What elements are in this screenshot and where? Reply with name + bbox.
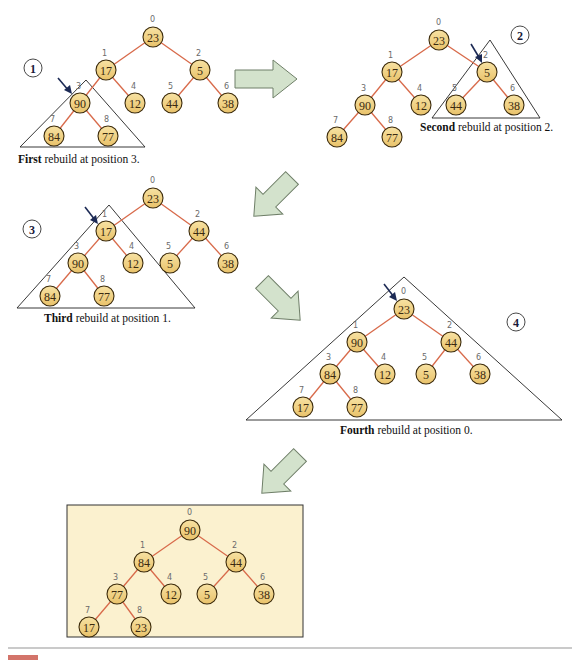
node-value: 84 <box>138 556 150 570</box>
node-index: 1 <box>353 321 358 330</box>
heap-node: 843 <box>320 353 340 384</box>
heap-node: 778 <box>94 275 114 306</box>
node-index: 2 <box>447 321 452 330</box>
node-index: 5 <box>422 353 427 362</box>
node-index: 6 <box>224 82 229 91</box>
heap-node: 445 <box>446 84 466 115</box>
node-index: 4 <box>129 242 134 251</box>
node-value: 12 <box>165 588 177 602</box>
node-index: 4 <box>131 82 136 91</box>
heap-node: 171 <box>96 49 116 80</box>
node-index: 3 <box>76 82 81 91</box>
node-index: 2 <box>195 210 200 219</box>
node-value: 44 <box>193 225 205 239</box>
node-index: 3 <box>361 84 366 93</box>
node-value: 84 <box>48 130 60 144</box>
node-index: 6 <box>224 242 229 251</box>
svg-text:2: 2 <box>517 29 523 43</box>
node-index: 4 <box>167 573 172 582</box>
node-value: 84 <box>324 368 336 382</box>
node-value: 77 <box>102 130 114 144</box>
node-index: 3 <box>113 573 118 582</box>
pointer-arrow-icon <box>384 284 397 301</box>
node-value: 44 <box>445 336 457 350</box>
node-value: 90 <box>184 524 196 538</box>
node-index: 7 <box>299 386 304 395</box>
node-value: 12 <box>127 257 139 271</box>
heap-node: 171 <box>96 210 116 241</box>
flow-arrow-down-left-icon <box>240 165 305 230</box>
heap-node: 442 <box>189 210 209 241</box>
node-value: 12 <box>129 97 141 111</box>
node-index: 2 <box>483 51 488 60</box>
heap-node: 124 <box>123 242 143 273</box>
node-value: 5 <box>484 66 490 80</box>
node-value: 44 <box>230 556 242 570</box>
node-index: 1 <box>388 51 393 60</box>
caption-step2: Second rebuild at position 2. <box>420 121 553 134</box>
svg-text:4: 4 <box>513 316 519 330</box>
node-index: 0 <box>436 18 441 27</box>
node-index: 7 <box>50 115 55 124</box>
heap-node: 124 <box>375 353 395 384</box>
step-badge-2: 2 <box>511 26 529 44</box>
node-value: 17 <box>100 64 112 78</box>
pointer-arrow-icon <box>85 207 98 224</box>
svg-text:3: 3 <box>29 223 35 237</box>
node-value: 12 <box>379 368 391 382</box>
node-value: 44 <box>166 97 178 111</box>
node-value: 17 <box>297 401 309 415</box>
heap-node: 230 <box>394 287 414 319</box>
node-value: 17 <box>100 225 112 239</box>
heap-node: 903 <box>355 84 375 115</box>
flow-arrow-down-right-icon <box>249 269 314 334</box>
node-index: 8 <box>388 116 393 125</box>
node-index: 4 <box>417 84 422 93</box>
node-value: 38 <box>222 257 234 271</box>
subtree-triangle-step1 <box>20 80 145 147</box>
heap-node: 778 <box>98 115 118 146</box>
node-value: 12 <box>415 99 427 113</box>
node-index: 6 <box>260 573 265 582</box>
node-index: 5 <box>166 242 171 251</box>
heap-node: 847 <box>327 116 347 147</box>
heap-node: 386 <box>470 353 490 384</box>
node-index: 6 <box>510 84 515 93</box>
heap-node: 903 <box>70 82 90 113</box>
flow-arrow-down-left-icon <box>248 442 313 507</box>
node-index: 1 <box>102 210 107 219</box>
heap-node: 177 <box>293 386 313 417</box>
node-index: 3 <box>74 242 79 251</box>
node-index: 8 <box>104 115 109 124</box>
node-value: 38 <box>258 588 270 602</box>
flow-arrow-right-icon <box>235 60 297 98</box>
node-value: 17 <box>83 621 95 635</box>
heap-node: 230 <box>143 15 163 47</box>
heap-node: 903 <box>68 242 88 273</box>
node-value: 23 <box>398 303 410 317</box>
heap-node: 230 <box>143 176 163 208</box>
node-value: 5 <box>423 368 429 382</box>
node-value: 17 <box>386 66 398 80</box>
step-badge-1: 1 <box>24 59 42 77</box>
node-index: 8 <box>137 606 142 615</box>
heap-node: 778 <box>347 386 367 417</box>
node-index: 7 <box>333 116 338 125</box>
node-index: 3 <box>326 353 331 362</box>
node-index: 8 <box>100 275 105 284</box>
heap-rebuild-figure: 1 2 3 4 First rebuild at position 3. Sec… <box>0 0 579 660</box>
node-value: 77 <box>351 401 363 415</box>
node-value: 90 <box>72 257 84 271</box>
heap-node: 778 <box>382 116 402 147</box>
node-value: 5 <box>197 64 203 78</box>
node-index: 0 <box>150 176 155 185</box>
node-value: 5 <box>204 588 210 602</box>
heap-node: 55 <box>416 353 436 384</box>
pointer-arrow-icon <box>58 78 72 94</box>
node-value: 38 <box>508 99 520 113</box>
caption-step4: Fourth rebuild at position 0. <box>340 424 473 437</box>
heap-node: 171 <box>382 51 402 82</box>
heap-node: 124 <box>411 84 431 115</box>
figure-caption-fragment <box>8 655 38 660</box>
node-index: 0 <box>187 508 192 517</box>
